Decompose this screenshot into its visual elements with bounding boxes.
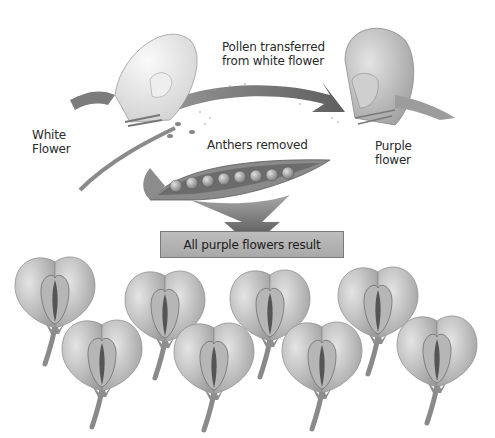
white-flower-label-line2: Flower: [32, 142, 71, 156]
pea-cross-diagram: White Flower Pollen transferred from whi…: [0, 0, 495, 438]
anthers-removed-label: Anthers removed: [207, 138, 308, 152]
white-flower-label: White Flower: [32, 128, 71, 156]
white-flower-label-line1: White: [32, 128, 71, 142]
purple-flower-label-line1: Purple: [375, 139, 412, 153]
result-box: All purple flowers result: [160, 231, 344, 258]
purple-flower-label: Purple flower: [375, 139, 412, 167]
pollen-transfer-label-line2: from white flower: [222, 54, 325, 68]
result-label: All purple flowers result: [183, 238, 320, 252]
pollen-transfer-label-line1: Pollen transferred: [222, 40, 325, 54]
purple-flower-illustration: [345, 28, 455, 125]
white-flower-illustration: [70, 34, 197, 190]
pollen-transfer-label: Pollen transferred from white flower: [222, 40, 325, 68]
offspring-flowers: [15, 257, 477, 430]
purple-flower-label-line2: flower: [375, 153, 412, 167]
